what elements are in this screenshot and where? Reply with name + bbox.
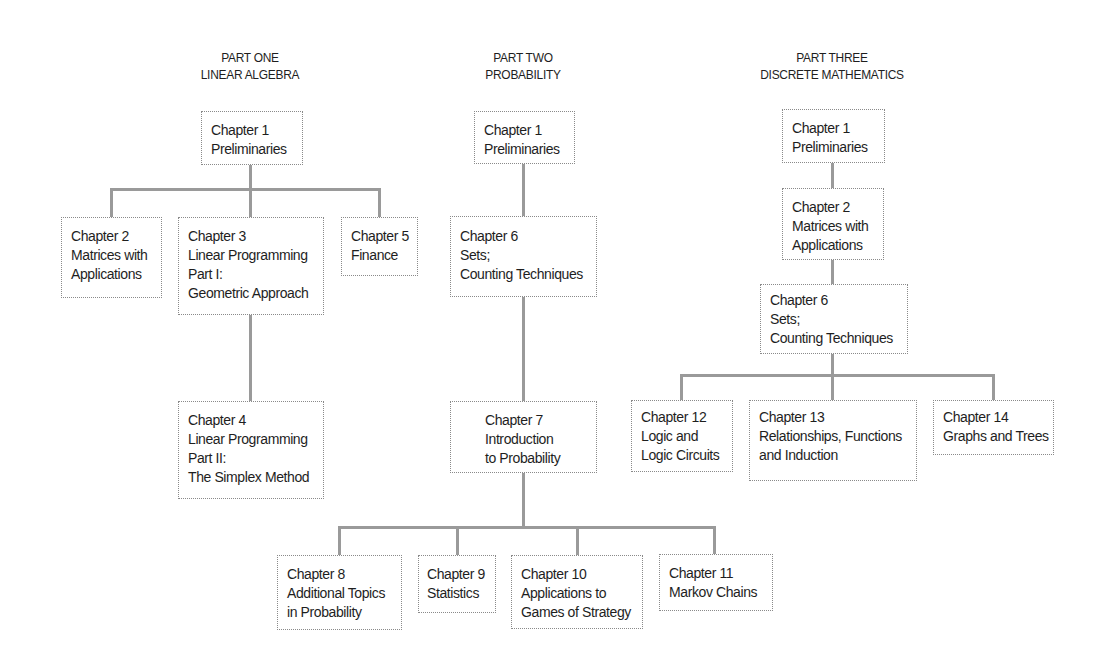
chapter-number: Chapter 1	[484, 121, 566, 140]
connector	[522, 164, 525, 216]
chapter-number: Chapter 12	[641, 408, 724, 427]
chapter-title: Matrices with	[792, 217, 875, 236]
connector	[680, 374, 683, 400]
chapter-title: Logic Circuits	[641, 446, 724, 465]
chapter-number: Chapter 13	[759, 408, 908, 427]
chapter-number: Chapter 1	[792, 119, 876, 138]
part-two-title: PART TWO PROBABILITY	[449, 49, 596, 83]
p2-chapter-11-box: Chapter 11 Markov Chains	[659, 554, 773, 611]
p1-chapter-2-box: Chapter 2 Matrices with Applications	[61, 217, 162, 298]
p3-chapter-12-box: Chapter 12 Logic and Logic Circuits	[631, 400, 733, 472]
chapter-title: Applications	[71, 265, 153, 284]
p2-chapter-7-box: Chapter 7 Introduction to Probability	[450, 401, 597, 473]
chapter-title: Logic and	[641, 427, 724, 446]
part-label: PART TWO	[449, 49, 596, 66]
chapter-number: Chapter 8	[287, 565, 393, 584]
connector	[378, 188, 381, 217]
chapter-number: Chapter 2	[792, 198, 875, 217]
chapter-title: Sets;	[770, 310, 899, 329]
chapter-title: Sets;	[460, 246, 588, 265]
chapter-title: in Probability	[287, 603, 393, 622]
chapter-title: Finance	[351, 246, 409, 265]
chapter-number: Chapter 14	[943, 408, 1045, 427]
chapter-title: Introduction	[485, 430, 588, 449]
chapter-number: Chapter 9	[427, 565, 487, 584]
p1-chapter-3-box: Chapter 3 Linear Programming Part I: Geo…	[178, 217, 324, 315]
chapter-number: Chapter 6	[770, 291, 899, 310]
chapter-number: Chapter 7	[485, 411, 588, 430]
chapter-number: Chapter 11	[669, 564, 764, 583]
chapter-title: Graphs and Trees	[943, 427, 1045, 446]
chapter-title: Preliminaries	[792, 138, 876, 157]
p2-chapter-6-box: Chapter 6 Sets; Counting Techniques	[450, 216, 597, 297]
connector	[576, 526, 579, 555]
chapter-title: The Simplex Method	[188, 468, 315, 487]
chapter-title: Part I:	[188, 265, 315, 284]
chapter-title: to Probability	[485, 449, 588, 468]
connector	[249, 188, 252, 217]
connector	[249, 315, 252, 401]
chapter-title: Part II:	[188, 449, 315, 468]
chapter-title: Preliminaries	[211, 140, 294, 159]
chapter-title: Preliminaries	[484, 140, 566, 159]
p1-chapter-4-box: Chapter 4 Linear Programming Part II: Th…	[178, 401, 324, 499]
connector	[522, 473, 525, 527]
chapter-number: Chapter 3	[188, 227, 315, 246]
chapter-title: Counting Techniques	[770, 329, 899, 348]
p3-chapter-6-box: Chapter 6 Sets; Counting Techniques	[760, 284, 908, 354]
chapter-number: Chapter 2	[71, 227, 153, 246]
part-label: PART THREE	[749, 49, 915, 66]
chapter-title: Applications	[792, 236, 875, 255]
connector	[110, 188, 381, 191]
part-subject: DISCRETE MATHEMATICS	[749, 66, 915, 83]
p2-chapter-8-box: Chapter 8 Additional Topics in Probabili…	[277, 555, 402, 630]
p1-chapter-1-box: Chapter 1 Preliminaries	[201, 111, 303, 165]
connector	[110, 188, 113, 217]
p1-chapter-5-box: Chapter 5 Finance	[341, 217, 418, 276]
connector	[338, 526, 716, 529]
chapter-number: Chapter 1	[211, 121, 294, 140]
connector	[522, 297, 525, 401]
chapter-title: Statistics	[427, 584, 487, 603]
chapter-title: Markov Chains	[669, 583, 764, 602]
part-label: PART ONE	[176, 49, 323, 66]
chapter-number: Chapter 5	[351, 227, 409, 246]
connector	[456, 526, 459, 555]
chapter-title: Linear Programming	[188, 430, 315, 449]
part-subject: LINEAR ALGEBRA	[176, 66, 323, 83]
chapter-title: Linear Programming	[188, 246, 315, 265]
chapter-title: Counting Techniques	[460, 265, 588, 284]
p3-chapter-2-box: Chapter 2 Matrices with Applications	[782, 188, 884, 260]
connector	[338, 526, 341, 555]
chapter-title: Relationships, Functions	[759, 427, 908, 446]
chapter-number: Chapter 4	[188, 411, 315, 430]
connector	[680, 374, 995, 377]
chapter-title: Games of Strategy	[521, 603, 634, 622]
connector	[831, 260, 834, 284]
connector	[831, 374, 834, 400]
part-subject: PROBABILITY	[449, 66, 596, 83]
p3-chapter-13-box: Chapter 13 Relationships, Functions and …	[749, 400, 917, 481]
connector	[831, 163, 834, 188]
p2-chapter-9-box: Chapter 9 Statistics	[418, 555, 496, 613]
connector	[992, 374, 995, 400]
part-three-title: PART THREE DISCRETE MATHEMATICS	[749, 49, 915, 83]
connector	[713, 526, 716, 555]
chapter-number: Chapter 10	[521, 565, 634, 584]
part-one-title: PART ONE LINEAR ALGEBRA	[176, 49, 323, 83]
chapter-number: Chapter 6	[460, 227, 588, 246]
p2-chapter-1-box: Chapter 1 Preliminaries	[474, 111, 575, 164]
p3-chapter-1-box: Chapter 1 Preliminaries	[782, 109, 885, 163]
chapter-title: Applications to	[521, 584, 634, 603]
chapter-title: Geometric Approach	[188, 284, 315, 303]
chapter-title: Matrices with	[71, 246, 153, 265]
chapter-title: Additional Topics	[287, 584, 393, 603]
chapter-dependency-diagram: PART ONE LINEAR ALGEBRA Chapter 1 Prelim…	[0, 0, 1108, 660]
p2-chapter-10-box: Chapter 10 Applications to Games of Stra…	[511, 555, 643, 629]
p3-chapter-14-box: Chapter 14 Graphs and Trees	[933, 400, 1054, 455]
chapter-title: and Induction	[759, 446, 908, 465]
